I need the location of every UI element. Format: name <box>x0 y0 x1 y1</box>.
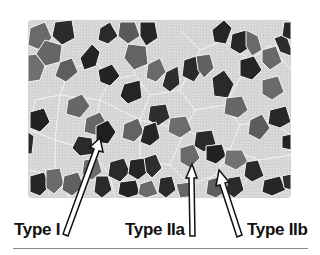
label-type-iib: Type IIb <box>247 221 308 238</box>
label-type-iia: Type IIa <box>125 221 185 238</box>
bottom-divider <box>13 248 308 249</box>
micrograph <box>28 20 291 198</box>
micrograph-svg <box>0 0 320 255</box>
arrow-type-iia <box>186 164 197 236</box>
muscle-fiber-diagram: Type I Type IIa Type IIb <box>0 0 320 255</box>
label-type-i: Type I <box>14 221 60 238</box>
